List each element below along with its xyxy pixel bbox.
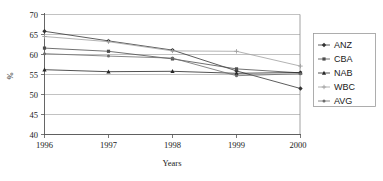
y-tick-label-40: 40: [30, 130, 39, 140]
x-tick-label-1998: 1998: [164, 140, 181, 150]
data-series-layer: [42, 29, 302, 91]
x-tick-label-1997: 1997: [100, 140, 117, 150]
data-point-marker: [299, 72, 302, 75]
y-tick-label-70: 70: [30, 10, 39, 20]
data-point-marker: [107, 50, 110, 53]
series-nab: [42, 68, 302, 76]
data-point-marker: [106, 40, 110, 44]
data-point-marker: [235, 67, 238, 70]
legend-label: NAB: [334, 68, 353, 78]
data-point-marker: [43, 52, 46, 55]
legend-label: WBC: [334, 82, 355, 92]
y-tick-label-45: 45: [30, 110, 39, 120]
legend-label: AVG: [334, 96, 352, 106]
line-chart-figure: 70 65 60 55 50 45 40 1996 1997 1998 1999…: [0, 0, 383, 181]
legend-label: CBA: [334, 54, 353, 64]
x-axis-tick-marks: [45, 135, 301, 139]
series-wbc: [42, 34, 302, 68]
x-tick-label-2000: 2000: [290, 140, 307, 150]
y-tick-label-55: 55: [30, 70, 39, 80]
data-point-marker: [43, 47, 46, 50]
x-tick-label-1996: 1996: [36, 140, 53, 150]
data-point-marker: [235, 74, 238, 77]
series-avg: [43, 52, 302, 77]
data-point-marker: [42, 34, 46, 38]
data-point-marker: [322, 57, 325, 60]
x-tick-label-1999: 1999: [228, 140, 245, 150]
data-point-marker: [171, 57, 174, 60]
y-tick-label-50: 50: [30, 90, 39, 100]
y-tick-label-65: 65: [30, 30, 39, 40]
y-axis-title: %: [5, 72, 15, 79]
chart-canvas: 70 65 60 55 50 45 40 1996 1997 1998 1999…: [0, 0, 383, 181]
data-point-marker: [170, 49, 174, 53]
data-point-marker: [107, 55, 110, 58]
data-point-marker: [234, 49, 238, 53]
y-tick-label-60: 60: [30, 50, 39, 60]
data-point-marker: [298, 64, 302, 68]
data-point-marker: [42, 29, 46, 33]
legend-label: ANZ: [334, 40, 353, 50]
data-point-marker: [323, 100, 326, 103]
data-point-marker: [298, 86, 302, 90]
x-axis-title: Years: [163, 158, 182, 168]
gridlines: [44, 15, 300, 135]
chart-legend: ANZCBANABWBCAVG: [314, 34, 376, 107]
